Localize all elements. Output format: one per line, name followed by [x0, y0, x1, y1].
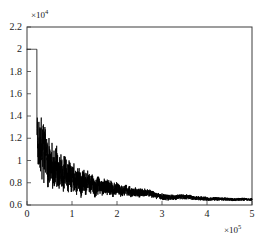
x-tick-label: 1 [70, 209, 75, 219]
x-tick-label: 5 [250, 209, 255, 219]
y-axis-exponent-label: ×104 [31, 9, 48, 20]
x-axis-exponent-power: 5 [238, 223, 241, 230]
x-tick-label: 2 [115, 209, 120, 219]
y-axis-exponent-power: 4 [45, 8, 48, 15]
y-tick-label: 0.8 [10, 178, 23, 188]
y-tick-label: 1.4 [10, 111, 23, 121]
x-tick-label: 3 [160, 209, 165, 219]
chart-screenshot: ×104 ×105 2.2 2 1.8 1.6 1.4 1.2 1 0.8 0.… [0, 0, 266, 243]
plot-frame [27, 27, 252, 205]
y-tick-label: 1.2 [10, 133, 23, 143]
x-tick-label: 4 [205, 209, 210, 219]
cost-curve [27, 49, 252, 201]
y-tick-label: 0.6 [10, 200, 23, 210]
line-chart-figure: ×104 ×105 2.2 2 1.8 1.6 1.4 1.2 1 0.8 0.… [0, 0, 266, 243]
y-tick-label: 1.6 [10, 89, 23, 99]
data-series-group [27, 49, 252, 201]
y-tick-label: 1.8 [10, 67, 23, 77]
axis-frame [27, 27, 252, 205]
x-tick-label: 0 [25, 209, 30, 219]
y-tick-label: 2.2 [10, 22, 23, 32]
y-tick-label: 2 [17, 44, 22, 54]
plot-svg [0, 0, 266, 243]
x-axis-exponent-base: ×10 [224, 225, 238, 235]
y-axis-exponent-base: ×10 [31, 10, 45, 20]
y-tick-label: 1 [17, 156, 22, 166]
axis-tickmarks [27, 27, 252, 205]
x-axis-exponent-label: ×105 [224, 224, 241, 235]
